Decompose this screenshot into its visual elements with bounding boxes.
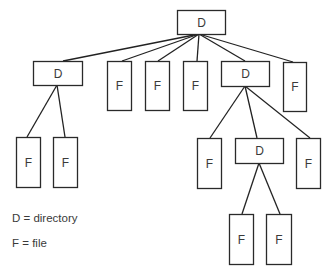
file-node-f10: F [267, 215, 292, 265]
file-node-f3: F [184, 62, 208, 111]
edge-d3-to-f10 [259, 163, 280, 214]
edge-root-to-d2 [199, 34, 245, 61]
node-label: F [25, 156, 32, 170]
tree-nodes: DDFFFDFFFFDFFF [17, 11, 321, 265]
file-node-f7: F [198, 139, 222, 189]
node-label: F [238, 233, 245, 247]
edge-d1-to-f5 [27, 85, 57, 137]
node-label: F [62, 156, 69, 170]
directory-node-root: D [178, 11, 226, 35]
edge-root-to-f4 [199, 34, 293, 62]
node-label: D [241, 67, 250, 81]
edge-d1-to-f6 [57, 85, 65, 137]
file-node-f9: F [230, 215, 254, 265]
file-node-f5: F [17, 138, 41, 188]
node-label: D [197, 16, 206, 30]
node-label: F [192, 79, 199, 93]
file-node-f6: F [54, 138, 78, 188]
node-label: F [206, 157, 213, 171]
directory-tree-diagram: DDFFFDFFFFDFFF [0, 0, 331, 276]
file-node-f8: F [297, 139, 321, 189]
node-label: F [154, 79, 161, 93]
node-label: F [275, 233, 282, 247]
node-label: D [54, 67, 63, 81]
node-label: F [291, 80, 298, 94]
edge-d2-to-f7 [210, 86, 245, 138]
file-node-f4: F [284, 63, 307, 112]
legend-directory: D = directory [12, 212, 78, 224]
node-label: F [116, 79, 123, 93]
node-label: D [255, 144, 264, 158]
file-node-f1: F [108, 62, 132, 111]
legend-file: F = file [12, 237, 47, 249]
directory-node-d2: D [222, 62, 270, 87]
node-label: F [305, 157, 312, 171]
directory-node-d3: D [236, 139, 284, 164]
edge-d3-to-f9 [242, 163, 259, 214]
file-node-f2: F [146, 62, 170, 111]
edge-root-to-f3 [197, 34, 199, 61]
directory-node-d1: D [34, 62, 83, 86]
